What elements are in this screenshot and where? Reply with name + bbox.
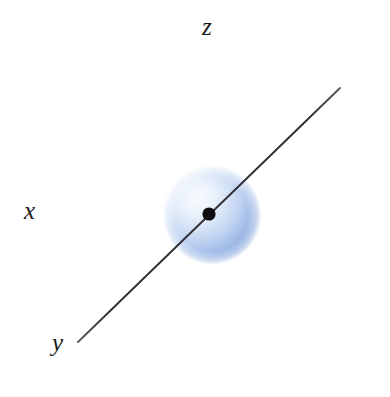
z-axis-label: z xyxy=(202,14,212,39)
y-axis-label: y xyxy=(52,330,63,355)
x-axis-label: x xyxy=(24,198,35,223)
origin-dot xyxy=(202,207,215,220)
figure-canvas: x y z xyxy=(0,0,390,397)
